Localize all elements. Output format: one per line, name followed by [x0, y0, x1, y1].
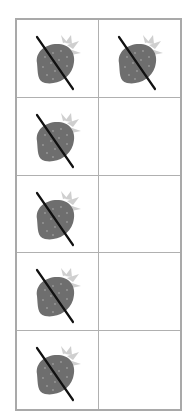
crossed-out-strawberry-icon [107, 29, 169, 91]
crossed-out-strawberry-icon [25, 185, 87, 247]
crossed-out-strawberry-icon [25, 107, 87, 169]
ten-frame-grid [15, 18, 182, 411]
frame-cell-empty [99, 331, 181, 409]
crossed-out-strawberry-icon [25, 262, 87, 324]
frame-cell-empty [99, 253, 181, 331]
frame-cell-filled [17, 331, 99, 409]
frame-cell-filled [17, 98, 99, 176]
crossed-out-strawberry-icon [25, 29, 87, 91]
frame-cell-filled [17, 176, 99, 254]
crossed-out-strawberry-icon [25, 340, 87, 402]
frame-cell-filled [17, 253, 99, 331]
frame-cell-empty [99, 98, 181, 176]
frame-cell-filled [99, 20, 181, 98]
frame-cell-empty [99, 176, 181, 254]
frame-cell-filled [17, 20, 99, 98]
